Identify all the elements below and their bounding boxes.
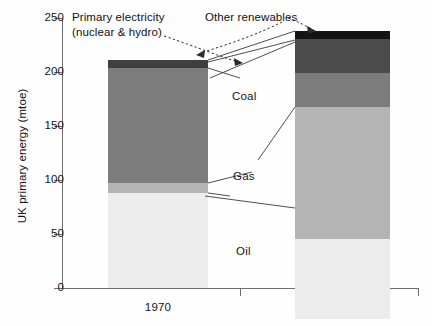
chart-figure: UK primary energy (mtoe) 250 200 150 100… [0, 0, 432, 326]
y-tick-label-100: 100 [18, 174, 64, 186]
y-tick-label-50: 50 [18, 228, 64, 240]
y-tick-150: 150 [0, 126, 64, 127]
x-tick-right [418, 288, 419, 296]
y-tick-label-250: 250 [18, 12, 64, 24]
bar-2001-segment-primary-electricity [295, 39, 390, 73]
callout-primary-electricity-line2: (nuclear & hydro) [72, 25, 165, 40]
bar-1970-segment-coal [108, 68, 208, 183]
bar-2001-segment-coal [295, 73, 390, 107]
y-axis-line [62, 18, 63, 289]
x-tick-label-1970: 1970 [118, 301, 198, 313]
y-tick-0: 0 [0, 288, 64, 289]
bar-1970-segment-primary-electricity [108, 60, 208, 68]
series-label-oil: Oil [236, 245, 251, 257]
bar-2001-segment-gas [295, 107, 390, 239]
x-tick-mid [240, 288, 241, 296]
y-tick-50: 50 [0, 234, 64, 235]
bar-1970-segment-oil [108, 193, 208, 288]
callout-other-renewables: Other renewables [205, 10, 297, 25]
bar-1970-segment-gas [108, 183, 208, 193]
series-label-gas: Gas [233, 170, 255, 182]
bar-2001[interactable] [295, 31, 390, 288]
y-tick-250: 250 [0, 18, 64, 19]
y-tick-label-0: 0 [18, 282, 64, 294]
callout-primary-electricity-line1: Primary electricity [72, 11, 165, 23]
y-tick-200: 200 [0, 72, 64, 73]
bar-2001-segment-oil [295, 239, 390, 319]
y-tick-label-200: 200 [18, 66, 64, 78]
bar-2001-segment-other-renewables [295, 31, 390, 39]
plot-area: UK primary energy (mtoe) 250 200 150 100… [0, 0, 432, 326]
bar-1970[interactable] [108, 60, 208, 288]
series-label-coal: Coal [232, 90, 256, 102]
y-tick-label-150: 150 [18, 120, 64, 132]
y-tick-100: 100 [0, 180, 64, 181]
callout-primary-electricity: Primary electricity (nuclear & hydro) [72, 10, 165, 39]
